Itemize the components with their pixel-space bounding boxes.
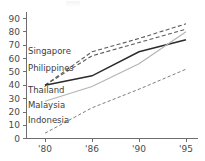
x-axis-ticks	[45, 139, 186, 143]
series-line-philippines	[45, 29, 186, 85]
y-tick-label: 50	[9, 67, 21, 77]
x-tick-label: '95	[179, 144, 193, 154]
line-chart: 90 80 70 60 50 40 30 20 10 0 '80 '86 '90…	[0, 0, 205, 161]
y-tick-label: 30	[9, 94, 21, 104]
y-tick-label: 40	[9, 80, 21, 90]
x-tick-label: '90	[132, 144, 146, 154]
y-tick-label: 10	[9, 120, 21, 130]
chart-plot-area: 90 80 70 60 50 40 30 20 10 0 '80 '86 '90…	[0, 0, 205, 161]
y-tick-label: 70	[9, 40, 21, 50]
y-tick-label: 0	[14, 134, 20, 144]
x-tick-label: '80	[38, 144, 52, 154]
y-axis-ticks	[23, 19, 27, 139]
series-label-singapore: Singapore	[28, 46, 71, 56]
y-tick-label: 20	[9, 107, 21, 117]
series-label-philippines: Philippines	[28, 63, 74, 73]
series-inline-labels: Singapore Philippines Thailand Malaysia …	[27, 46, 74, 125]
x-tick-label: '86	[85, 144, 99, 154]
x-axis-tick-labels: '80 '86 '90 '95	[38, 144, 193, 154]
series-label-malaysia: Malaysia	[28, 100, 65, 110]
series-label-thailand: Thailand	[27, 85, 65, 95]
y-tick-label: 60	[9, 54, 21, 64]
y-tick-label: 80	[9, 27, 21, 37]
series-label-indonesia: Indonesia	[28, 115, 69, 125]
y-tick-label: 90	[9, 14, 21, 24]
y-axis-tick-labels: 90 80 70 60 50 40 30 20 10 0	[9, 14, 21, 144]
